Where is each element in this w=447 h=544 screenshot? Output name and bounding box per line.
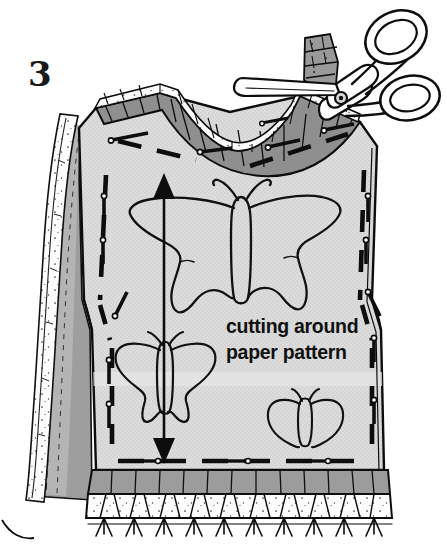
step-number: 3 xyxy=(28,57,52,91)
caption-block: cutting around paper pattern xyxy=(226,313,396,366)
caption-line-1: cutting around xyxy=(226,313,396,339)
illustration-canvas: 3 cutting around paper pattern xyxy=(0,0,447,544)
caption-line-2: paper pattern xyxy=(226,339,396,365)
sewing-diagram-svg xyxy=(0,0,447,544)
